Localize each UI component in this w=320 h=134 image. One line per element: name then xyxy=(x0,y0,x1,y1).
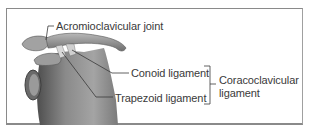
label-acromioclavicular-joint: Acromioclavicular joint xyxy=(56,20,163,32)
label-conoid-ligament: Conoid ligament xyxy=(131,67,209,79)
label-coracoclavicular-line2: ligament xyxy=(219,87,299,100)
label-coracoclavicular-ligament: Coracoclavicular ligament xyxy=(219,74,299,100)
label-trapezoid-ligament: Trapezoid ligament xyxy=(115,92,206,104)
label-coracoclavicular-line1: Coracoclavicular xyxy=(219,74,299,87)
acromion xyxy=(22,36,49,51)
coracoid-process xyxy=(34,53,61,65)
